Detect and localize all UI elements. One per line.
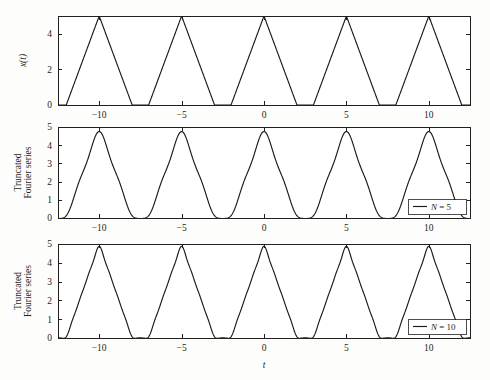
figure-canvas: −10−50510024x(t) −10−50510012345Truncate… — [0, 0, 490, 380]
legend-label: N = 5 — [430, 202, 452, 212]
plot-area-2: −10−50510012345TruncatedFourier seriestN… — [0, 234, 490, 372]
y-tick-label: 4 — [47, 141, 52, 151]
y-tick-label: 0 — [47, 333, 52, 343]
y-axis-label: x(t) — [18, 54, 29, 68]
y-tick-label: 0 — [47, 100, 52, 110]
y-tick-label: 3 — [47, 277, 52, 287]
axes-frame — [59, 17, 471, 106]
x-tick-label: −10 — [92, 223, 107, 233]
x-tick-label: 0 — [262, 223, 267, 233]
legend: N = 5 — [409, 200, 467, 215]
y-tick-label: 5 — [47, 122, 52, 132]
y-axis-label: TruncatedFourier series — [13, 146, 33, 198]
x-tick-label: 5 — [344, 343, 349, 353]
x-tick-label: −10 — [92, 343, 107, 353]
y-tick-label: 1 — [47, 195, 52, 205]
y-axis-label: TruncatedFourier series — [13, 265, 33, 317]
x-tick-label: −5 — [177, 223, 187, 233]
plot-panel-fourier-n5: −10−50510012345TruncatedFourier seriesN … — [0, 117, 490, 252]
x-tick-label: 10 — [424, 343, 434, 353]
x-tick-label: −5 — [177, 343, 187, 353]
y-axis-label-line: Truncated — [13, 153, 23, 191]
plot-panel-fourier-n10: −10−50510012345TruncatedFourier seriestN… — [0, 234, 490, 372]
legend: N = 10 — [409, 320, 467, 335]
y-axis-label-line: x(t) — [18, 54, 29, 68]
x-axis-label: t — [263, 360, 266, 370]
y-tick-label: 4 — [47, 258, 52, 268]
y-tick-label: 2 — [47, 296, 52, 306]
y-tick-label: 3 — [47, 159, 52, 169]
legend-label: N = 10 — [430, 322, 456, 332]
y-axis-label-line: Fourier series — [23, 265, 33, 317]
y-tick-label: 1 — [47, 315, 52, 325]
y-tick-label: 2 — [47, 177, 52, 187]
y-tick-label: 4 — [47, 29, 52, 39]
y-tick-label: 5 — [47, 239, 52, 249]
plot-area-1: −10−50510012345TruncatedFourier seriesN … — [0, 117, 490, 252]
x-tick-label: 0 — [262, 343, 267, 353]
y-tick-label: 2 — [47, 65, 52, 75]
y-axis-label-line: Fourier series — [23, 146, 33, 198]
x-tick-label: 10 — [424, 223, 434, 233]
y-axis-label-line: Truncated — [13, 272, 23, 310]
x-tick-label: 5 — [344, 223, 349, 233]
y-tick-label: 0 — [47, 213, 52, 223]
